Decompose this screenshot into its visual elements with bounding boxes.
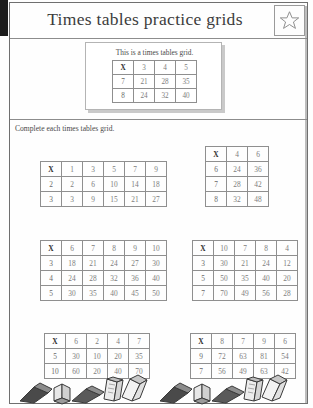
grid-4-column-header-3: 8 [256,241,277,256]
example-panel: This is a times tables grid. X3457212835… [85,42,222,110]
grid-1-column-header-1: 1 [62,162,83,177]
grid-4-cell-r3c3[interactable]: 56 [256,286,277,301]
grid-4-row-header-3: 7 [193,286,214,301]
grid-2-row-header-2: 7 [206,177,227,192]
grid-4-cell-r3c2[interactable]: 49 [235,286,256,301]
grid-3-row-header-3: 5 [41,286,62,301]
grid-2-row: 62436 [206,162,269,177]
example-grid-row-header-1: 7 [113,75,134,89]
times-table-grid-1[interactable]: X13579226101418339152127 [40,161,167,207]
grid-1-row-header-2: 3 [41,192,62,207]
grid-1-cell-r2c1[interactable]: 3 [62,192,83,207]
grid-2-cell-r1c1[interactable]: 24 [227,162,248,177]
grid-4-cell-r1c3[interactable]: 24 [256,256,277,271]
grid-3-row: 31821242730 [41,256,167,271]
example-grid-cell-r2c2[interactable]: 32 [155,89,176,103]
times-table-grid-2[interactable]: X46624367284283248 [205,146,269,207]
grid-6-cell-r1c4[interactable]: 54 [275,349,296,364]
grid-2-cell-r3c2[interactable]: 48 [248,192,269,207]
grid-2-row-header-3: 8 [206,192,227,207]
grid-4-cell-r1c2[interactable]: 21 [235,256,256,271]
times-table-grid-3[interactable]: X678910318212427304242832364053035404550 [40,240,167,301]
grid-1-header-row: X13579 [41,162,167,177]
grid-1-column-header-5: 9 [146,162,167,177]
grid-1-cell-r1c1[interactable]: 2 [62,177,83,192]
grid-5-column-header-4: 7 [129,334,150,349]
grid-3-cell-r1c4[interactable]: 27 [125,256,146,271]
grid-1-cell-r2c5[interactable]: 27 [146,192,167,207]
grid-1-cell-r1c3[interactable]: 10 [104,177,125,192]
grid-3-row-header-2: 4 [41,271,62,286]
grid-6-column-header-3: 9 [254,334,275,349]
example-grid-row: 8243240 [113,89,197,103]
grid-3-cell-r2c1[interactable]: 24 [62,271,83,286]
grid-3-cell-r2c5[interactable]: 40 [146,271,167,286]
grid-6-column-header-2: 7 [233,334,254,349]
grid-3-cell-r3c5[interactable]: 50 [146,286,167,301]
grid-6-cell-r1c3[interactable]: 81 [254,349,275,364]
grid-2-cell-r3c1[interactable]: 32 [227,192,248,207]
example-grid-cell-r1c2[interactable]: 28 [155,75,176,89]
grid-3-cell-r1c5[interactable]: 30 [146,256,167,271]
grid-1-row-header-1: 2 [41,177,62,192]
grid-1-column-header-4: 7 [125,162,146,177]
grid-5-column-header-3: 4 [108,334,129,349]
grid-4-header-row: X10784 [193,241,298,256]
times-table-grid-4[interactable]: X10784330212412550354020770495628 [192,240,298,301]
grid-5-cell-r1c3[interactable]: 20 [108,349,129,364]
grid-5-cell-r1c2[interactable]: 10 [87,349,108,364]
grid-1-corner-cell: X [41,162,62,177]
grid-5-row: 530102035 [45,349,150,364]
grid-2-cell-r2c2[interactable]: 42 [248,177,269,192]
grid-4-cell-r1c4[interactable]: 12 [277,256,298,271]
grid-3-cell-r1c3[interactable]: 24 [104,256,125,271]
example-grid-cell-r1c1[interactable]: 21 [134,75,155,89]
grid-3-cell-r2c4[interactable]: 36 [125,271,146,286]
grid-2-cell-r2c1[interactable]: 28 [227,177,248,192]
grid-3-cell-r3c3[interactable]: 40 [104,286,125,301]
grid-3-corner-cell: X [41,241,62,256]
grid-4-cell-r3c4[interactable]: 28 [277,286,298,301]
grid-4-cell-r2c3[interactable]: 40 [256,271,277,286]
grid-2-cell-r1c2[interactable]: 36 [248,162,269,177]
grid-3-cell-r3c1[interactable]: 30 [62,286,83,301]
grid-3-cell-r1c2[interactable]: 21 [83,256,104,271]
page-header: Times tables practice grids [10,3,307,38]
grid-3-cell-r1c1[interactable]: 18 [62,256,83,271]
example-grid-cell-r1c3[interactable]: 35 [176,75,197,89]
grid-3-cell-r2c2[interactable]: 28 [83,271,104,286]
example-grid-header-row: X345 [113,61,197,75]
example-grid-cell-r2c1[interactable]: 24 [134,89,155,103]
grid-3-cell-r3c2[interactable]: 35 [83,286,104,301]
grid-4-row-header-1: 3 [193,256,214,271]
grid-1-cell-r1c4[interactable]: 14 [125,177,146,192]
grid-4-column-header-2: 7 [235,241,256,256]
header-divider [10,38,307,39]
grid-3-cell-r3c4[interactable]: 45 [125,286,146,301]
grid-3-row: 42428323640 [41,271,167,286]
grid-1-row: 339152127 [41,192,167,207]
grid-4-cell-r2c2[interactable]: 35 [235,271,256,286]
grid-1-cell-r1c2[interactable]: 6 [83,177,104,192]
grid-1-cell-r2c2[interactable]: 9 [83,192,104,207]
grid-4-cell-r2c4[interactable]: 20 [277,271,298,286]
example-caption: This is a times tables grid. [86,48,223,57]
example-grid-cell-r2c3[interactable]: 40 [176,89,197,103]
grid-6-cell-r1c2[interactable]: 63 [233,349,254,364]
grid-5-cell-r1c4[interactable]: 35 [129,349,150,364]
grid-3-column-header-1: 6 [62,241,83,256]
example-grid-row: 7212835 [113,75,197,89]
grid-4-cell-r1c1[interactable]: 30 [214,256,235,271]
grid-1-cell-r2c3[interactable]: 15 [104,192,125,207]
grid-5-cell-r1c1[interactable]: 30 [66,349,87,364]
grid-1-cell-r2c4[interactable]: 21 [125,192,146,207]
grid-3-column-header-4: 9 [125,241,146,256]
grid-4-cell-r3c1[interactable]: 70 [214,286,235,301]
grid-3-cell-r2c3[interactable]: 32 [104,271,125,286]
grid-4-row: 550354020 [193,271,298,286]
grid-2-column-header-2: 6 [248,147,269,162]
grid-6-cell-r1c1[interactable]: 72 [212,349,233,364]
page-title: Times tables practice grids [10,9,280,30]
grid-4-cell-r2c1[interactable]: 50 [214,271,235,286]
grid-1-cell-r1c5[interactable]: 18 [146,177,167,192]
